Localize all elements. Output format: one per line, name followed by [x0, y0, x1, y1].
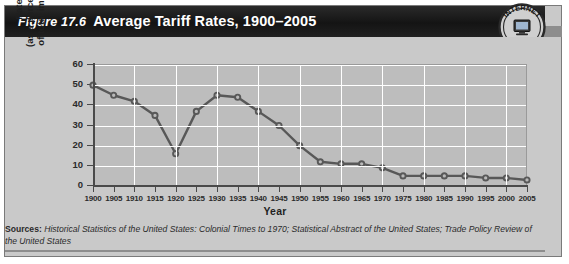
figure-title-bar: Figure 17.6Average Tariff Rates, 1900–20… — [5, 6, 545, 37]
gridline-vertical — [134, 65, 135, 185]
y-axis-tick-label: 60 — [59, 59, 83, 68]
x-axis-tick — [444, 187, 445, 192]
x-axis-title: Year — [5, 205, 545, 217]
x-axis-tick — [424, 187, 425, 192]
x-axis-tick — [258, 187, 259, 192]
gridline-vertical — [258, 65, 259, 185]
chart-canvas: Rate (as a percentage of total imports) … — [5, 37, 545, 223]
gridline-vertical — [506, 65, 507, 185]
series-data-point — [152, 113, 157, 118]
gridline-vertical — [465, 65, 466, 185]
x-axis-tick — [527, 187, 528, 192]
x-axis-tick — [279, 187, 280, 192]
plot-area — [93, 64, 527, 185]
series-data-point — [318, 159, 323, 164]
x-axis-line — [93, 185, 528, 187]
gridline-vertical — [424, 65, 425, 185]
x-axis-tick — [176, 187, 177, 192]
series-data-point — [442, 173, 447, 178]
x-axis-tick-label: 2005 — [512, 194, 542, 203]
y-axis-tick-label: 20 — [59, 140, 83, 149]
y-axis-title-line-1: Rate — [13, 0, 24, 67]
series-data-point — [483, 175, 488, 180]
gridline-horizontal — [93, 65, 526, 66]
series-data-point — [400, 173, 405, 178]
gridline-vertical — [217, 65, 218, 185]
figure-title-text: Figure 17.6Average Tariff Rates, 1900–20… — [18, 11, 316, 32]
y-axis-tick-label: 10 — [59, 160, 83, 169]
sources-label: Sources: — [5, 224, 42, 234]
x-axis-tick — [93, 187, 94, 192]
gridline-horizontal — [93, 126, 526, 127]
x-axis-tick — [382, 187, 383, 192]
page-title: Average Tariff Rates, 1900–2005 — [93, 13, 316, 29]
y-axis-title: Rate (as a percentage of total imports) — [13, 0, 46, 67]
x-axis-tick — [506, 187, 507, 192]
gridline-horizontal — [93, 166, 526, 167]
x-axis-tick — [300, 187, 301, 192]
x-axis-tick — [320, 187, 321, 192]
sources-note: Sources: Historical Statistics of the Un… — [5, 224, 545, 247]
y-axis-tick-label: 30 — [59, 120, 83, 129]
x-axis-tick — [465, 187, 466, 192]
x-axis-tick — [341, 187, 342, 192]
series-data-point — [524, 177, 529, 182]
x-axis-tick — [155, 187, 156, 192]
gridline-horizontal — [93, 105, 526, 106]
y-axis-tick-label: 50 — [59, 79, 83, 88]
x-axis-tick — [217, 187, 218, 192]
y-axis-tick-label: 0 — [59, 180, 83, 189]
x-axis-tick — [196, 187, 197, 192]
gridline-vertical — [382, 65, 383, 185]
x-axis-tick — [403, 187, 404, 192]
gridline-vertical — [300, 65, 301, 185]
gridline-horizontal — [93, 146, 526, 147]
figure-container: Figure 17.6Average Tariff Rates, 1900–20… — [0, 0, 569, 264]
sources-body: Historical Statistics of the United Stat… — [5, 224, 532, 246]
y-axis-title-line-3: of total imports) — [35, 0, 46, 67]
bottom-rule — [5, 250, 545, 252]
x-axis-tick — [238, 187, 239, 192]
gridline-horizontal — [93, 85, 526, 86]
y-axis-title-line-2: (as a percentage — [24, 0, 35, 67]
x-axis-tick — [486, 187, 487, 192]
x-axis-tick — [114, 187, 115, 192]
gridline-vertical — [341, 65, 342, 185]
x-axis-tick — [362, 187, 363, 192]
series-data-point — [111, 93, 116, 98]
series-data-point — [194, 109, 199, 114]
y-axis-tick-label: 40 — [59, 99, 83, 108]
x-axis-tick — [134, 187, 135, 192]
y-axis-line — [93, 63, 95, 186]
gridline-vertical — [176, 65, 177, 185]
series-data-point — [235, 95, 240, 100]
